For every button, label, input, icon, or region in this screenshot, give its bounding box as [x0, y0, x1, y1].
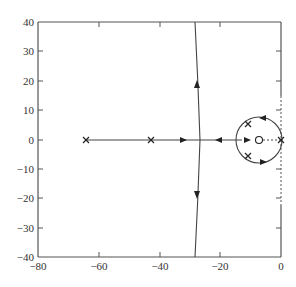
arrow-left-icon: [259, 115, 266, 121]
arrow-left-icon: [215, 137, 222, 143]
x-tick-labels: −80 −60 −40 −20 0: [29, 260, 284, 272]
arrow-right-icon: [260, 159, 267, 165]
y-tick-label: 30: [23, 45, 35, 57]
x-tick-label: −20: [211, 260, 229, 272]
pole-marker-icon: [245, 121, 251, 127]
y-tick-label: −30: [17, 222, 35, 234]
pole-marker-icon: [245, 153, 251, 159]
y-tick-label: −10: [17, 163, 35, 175]
zero-marker-icon: [256, 137, 263, 144]
y-tick-label: −20: [17, 192, 35, 204]
arrow-down-icon: [194, 191, 200, 199]
y-tick-label: 40: [23, 16, 35, 28]
y-tick-label: 0: [29, 134, 35, 146]
arrow-up-icon: [194, 80, 200, 88]
lower-vertical-branch: [195, 140, 200, 257]
x-tick-label: −60: [90, 260, 108, 272]
x-tick-label: 0: [278, 260, 284, 272]
arrow-right-icon: [180, 137, 187, 143]
x-tick-label: −80: [29, 260, 47, 272]
y-tick-labels: 40 30 20 10 0 −10 −20 −30 −40: [17, 16, 35, 263]
arrow-right-icon: [244, 137, 251, 143]
y-tick-label: 10: [23, 104, 35, 116]
x-tick-label: −40: [151, 260, 169, 272]
root-locus-chart: 40 30 20 10 0 −10 −20 −30 −40 −80 −60 −4…: [0, 0, 296, 287]
upper-vertical-branch: [195, 22, 200, 140]
y-tick-label: 20: [23, 75, 35, 87]
